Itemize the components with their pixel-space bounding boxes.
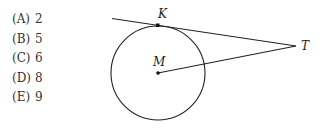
label-t: T [301, 39, 310, 53]
point-k [156, 24, 160, 28]
label-k: K [157, 7, 168, 21]
label-m: M [152, 55, 166, 69]
segment-mt [158, 46, 296, 73]
geometry-figure: K T M [0, 0, 331, 129]
tangent-line-kt [112, 19, 296, 47]
point-m [156, 71, 160, 75]
